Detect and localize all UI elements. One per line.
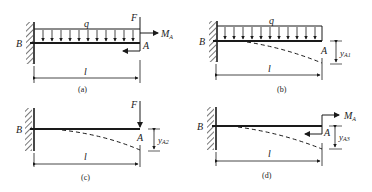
span-label: l [84, 151, 87, 162]
free-end-label: A [136, 132, 144, 143]
panel-d: yA3 MA B A l (d) [197, 107, 356, 180]
caption: (d) [262, 171, 272, 180]
load-label: q [84, 18, 89, 29]
force-label: F [130, 99, 138, 110]
distributed-load-arrows [43, 30, 133, 41]
support-label: B [16, 38, 22, 49]
support-label: B [16, 124, 22, 135]
support-label: B [199, 36, 205, 47]
moment-label: MA [343, 110, 356, 122]
force-label: F [130, 12, 138, 23]
deflection-label: yA3 [338, 132, 350, 142]
beam-diagram-figure: q F MA B A l (a) [0, 0, 372, 192]
free-end-label: A [323, 127, 331, 138]
free-end-label: A [142, 40, 150, 51]
span-label: l [268, 148, 271, 159]
deflection-curve [238, 127, 322, 149]
load-label: q [269, 15, 274, 26]
caption: (c) [81, 173, 90, 182]
support-label: B [197, 121, 203, 132]
panel-a: q F MA B A l (a) [16, 12, 173, 94]
span-label: l [84, 66, 87, 77]
deflection-label: yA2 [157, 135, 169, 145]
panel-b: yA1 q B A l (b) [199, 15, 351, 94]
distributed-load-arrows [225, 27, 315, 39]
free-end-label: A [320, 45, 328, 56]
panel-c: yA2 F B A l (c) [16, 99, 169, 182]
caption: (a) [78, 85, 87, 94]
caption: (b) [277, 85, 287, 94]
moment-label: MA [160, 28, 173, 40]
fixed-support-hatch [207, 107, 214, 150]
deflection-curve [247, 42, 322, 63]
span-label: l [268, 63, 271, 74]
deflection-curve [62, 130, 140, 150]
deflection-label: yA1 [339, 48, 351, 58]
